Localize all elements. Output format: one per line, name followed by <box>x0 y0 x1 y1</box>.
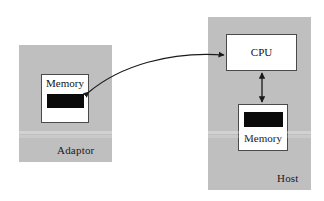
diagram-canvas: Adaptor Memory Host CPU Memory <box>0 0 324 201</box>
arrow-layer <box>0 0 324 201</box>
adaptor-memory-to-cpu-arrow <box>89 54 224 92</box>
